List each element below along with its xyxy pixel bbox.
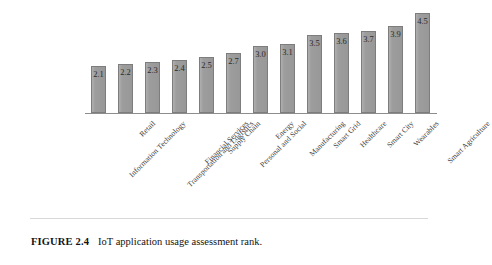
bar-item: 2.1: [91, 66, 106, 113]
bar-value-label: 2.5: [199, 60, 214, 70]
bar-value-label: 2.3: [145, 65, 160, 75]
bar-item: 3.9: [388, 26, 403, 113]
bar-value-label: 2.1: [91, 69, 106, 79]
bar-value-label: 3.0: [253, 49, 268, 59]
bar-item: 3.7: [361, 31, 376, 113]
bar-value-label: 3.9: [388, 29, 403, 39]
bar-value-label: 3.5: [307, 38, 322, 48]
bar-value-label: 3.7: [361, 34, 376, 44]
bar-item: 2.5: [199, 57, 214, 113]
bar-item: 3.1: [280, 44, 295, 113]
bar-item: 2.2: [118, 64, 133, 113]
bar-rect: [415, 13, 430, 113]
bar-value-label: 3.1: [280, 47, 295, 57]
x-axis-line: [85, 113, 437, 114]
bar-value-label: 2.7: [226, 56, 241, 66]
bar-value-label: 3.6: [334, 36, 349, 46]
bar-value-label: 2.2: [118, 67, 133, 77]
figure-caption-label: FIGURE 2.4: [31, 236, 89, 247]
bar-value-label: 4.5: [415, 16, 430, 26]
bar-chart-plot-area: 2.12.22.32.42.52.73.03.13.53.63.73.94.5: [0, 0, 456, 210]
caption-divider: [30, 218, 428, 219]
bar-item: 2.7: [226, 53, 241, 113]
bar-item: 2.3: [145, 62, 160, 113]
bar-item: 2.4: [172, 60, 187, 113]
figure-caption-text: IoT application usage assessment rank.: [98, 236, 262, 247]
bar-item: 3.6: [334, 33, 349, 113]
bar-item: 3.5: [307, 35, 322, 113]
bar-value-label: 2.4: [172, 63, 187, 73]
figure-caption: FIGURE 2.4IoT application usage assessme…: [31, 236, 441, 247]
bar-item: 4.5: [415, 13, 430, 113]
bar-item: 3.0: [253, 46, 268, 113]
